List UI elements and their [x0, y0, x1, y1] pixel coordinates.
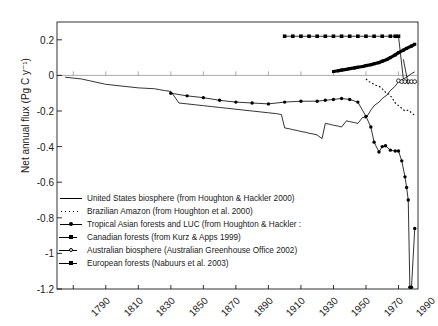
legend-item-3[interactable]: Canadian forests (from Kurz & Apps 1999) [58, 231, 301, 244]
marker-3-8 [348, 34, 352, 38]
marker-2-18 [377, 150, 380, 153]
marker-2-9 [315, 100, 318, 103]
marker-5-14 [389, 56, 392, 59]
marker-3-4 [315, 34, 319, 38]
marker-2-16 [369, 125, 372, 128]
marker-5-19 [410, 45, 413, 48]
marker-5-18 [405, 47, 408, 50]
marker-2-29 [410, 286, 413, 289]
marker-3-14 [393, 34, 397, 38]
legend-label-0: United States biosphere (from Houghton &… [87, 193, 295, 204]
legend-item-0[interactable]: United States biosphere (from Houghton &… [58, 192, 301, 205]
marker-2-6 [267, 102, 270, 105]
legend-item-1[interactable]: Brazilian Amazon (from Houghton et al. 2… [58, 205, 301, 218]
annotation-line-0 [398, 36, 403, 79]
legend-label-5: European forests (Nabuurs et al. 2003) [87, 258, 229, 269]
marker-2-19 [381, 145, 384, 148]
marker-2-14 [356, 100, 359, 103]
marker-3-3 [307, 34, 311, 38]
marker-5-20 [413, 43, 416, 46]
chart-legend: United States biosphere (from Houghton &… [58, 192, 301, 270]
marker-2-10 [324, 99, 327, 102]
legend-item-4[interactable]: Australian biosphere (Australian Greenho… [58, 244, 301, 257]
marker-5-2 [340, 69, 343, 72]
marker-5-0 [332, 70, 335, 73]
legend-label-2: Tropical Asian forests and LUC (from Hou… [87, 219, 301, 230]
series-line-0 [65, 72, 415, 139]
legend-marker-icon-4 [58, 245, 84, 256]
marker-2-30 [413, 227, 416, 230]
marker-2-3 [218, 99, 221, 102]
marker-2-4 [234, 100, 237, 103]
marker-2-13 [348, 98, 351, 101]
marker-3-10 [364, 34, 368, 38]
marker-2-5 [250, 101, 253, 104]
marker-3-6 [332, 34, 336, 38]
marker-3-13 [389, 34, 393, 38]
marker-2-27 [407, 198, 410, 201]
series-line-5 [333, 44, 414, 71]
marker-5-8 [364, 64, 367, 67]
marker-3-7 [340, 34, 344, 38]
marker-3-12 [380, 34, 384, 38]
marker-2-24 [400, 159, 403, 162]
marker-3-11 [372, 34, 376, 38]
marker-2-25 [403, 175, 406, 178]
marker-2-8 [299, 100, 302, 103]
legend-label-1: Brazilian Amazon (from Houghton et al. 2… [87, 206, 253, 217]
marker-3-2 [299, 34, 303, 38]
legend-marker-icon-1 [58, 206, 84, 217]
marker-4-5 [413, 80, 417, 84]
marker-5-17 [402, 49, 405, 52]
marker-5-10 [373, 62, 376, 65]
legend-marker-icon-5 [58, 258, 84, 269]
marker-3-5 [324, 34, 328, 38]
marker-5-6 [356, 66, 359, 69]
marker-2-23 [397, 149, 400, 152]
marker-2-7 [283, 100, 286, 103]
marker-3-0 [283, 34, 287, 38]
legend-item-5[interactable]: European forests (Nabuurs et al. 2003) [58, 257, 301, 270]
marker-3-1 [291, 34, 295, 38]
marker-5-9 [369, 63, 372, 66]
marker-3-9 [356, 34, 360, 38]
marker-2-15 [364, 115, 367, 118]
marker-2-21 [389, 148, 392, 151]
marker-2-0 [169, 92, 172, 95]
marker-2-1 [185, 94, 188, 97]
marker-5-5 [353, 66, 356, 69]
marker-2-26 [405, 186, 408, 189]
marker-5-11 [377, 61, 380, 64]
marker-5-3 [345, 68, 348, 71]
marker-5-1 [337, 69, 340, 72]
series-line-1 [366, 79, 415, 115]
marker-5-13 [386, 58, 389, 61]
marker-2-12 [340, 97, 343, 100]
marker-5-7 [361, 65, 364, 68]
legend-label-4: Australian biosphere (Australian Greenho… [87, 245, 297, 256]
legend-marker-icon-0 [58, 193, 84, 204]
marker-5-4 [348, 67, 351, 70]
marker-2-2 [202, 96, 205, 99]
marker-5-16 [397, 51, 400, 54]
marker-2-22 [394, 149, 397, 152]
marker-2-11 [332, 98, 335, 101]
marker-2-17 [372, 140, 375, 143]
legend-marker-icon-2 [58, 219, 84, 230]
legend-marker-icon-3 [58, 232, 84, 243]
marker-5-12 [381, 60, 384, 63]
marker-5-15 [394, 53, 397, 56]
legend-label-3: Canadian forests (from Kurz & Apps 1999) [87, 232, 241, 243]
legend-item-2[interactable]: Tropical Asian forests and LUC (from Hou… [58, 218, 301, 231]
marker-2-20 [384, 144, 387, 147]
